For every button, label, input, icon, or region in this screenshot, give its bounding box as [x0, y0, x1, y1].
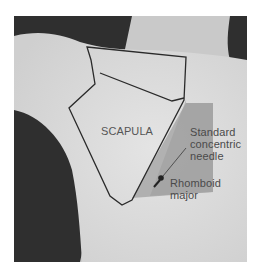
scapula-label: SCAPULA — [101, 125, 153, 137]
rhomboid-major-label: Rhomboid major — [170, 177, 230, 201]
needle-insertion-point-icon — [158, 175, 164, 181]
needle-label: Standard concentric needle — [190, 126, 250, 162]
